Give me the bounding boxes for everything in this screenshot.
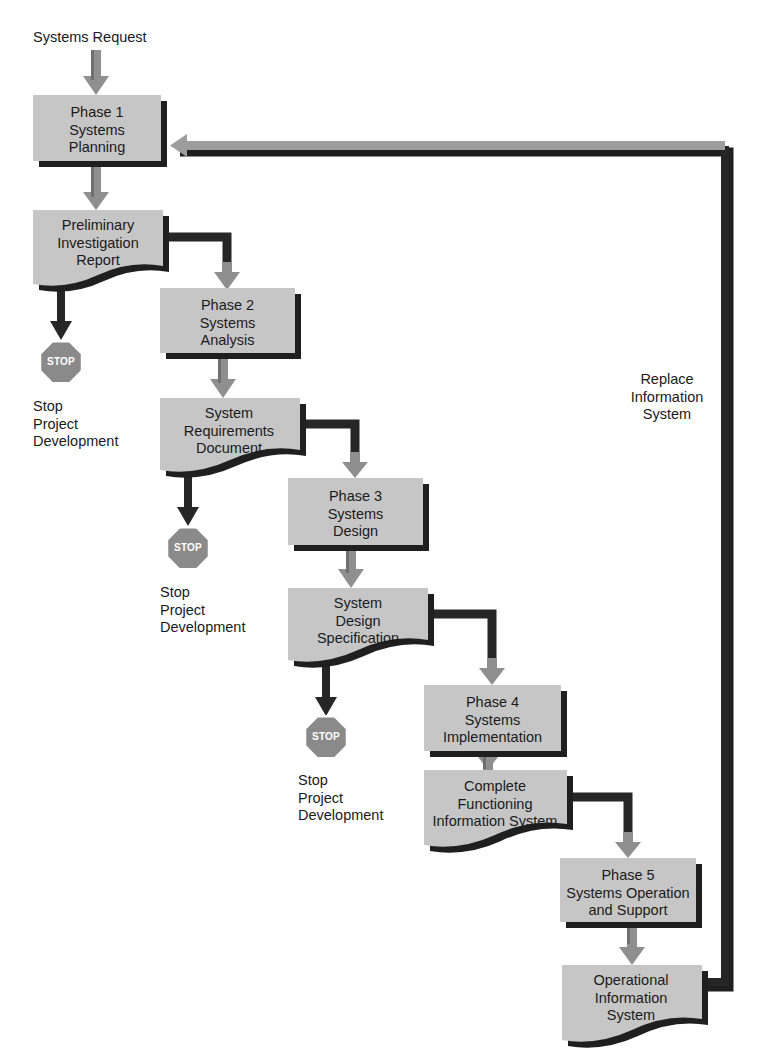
connector-system-design-spec-to-stop3 [315,660,337,716]
node-phase5[interactable] [560,858,702,928]
node-phase3[interactable] [288,478,429,551]
node-preliminary-investigation-report[interactable] [33,210,169,292]
connector-system-requirements-to-phase3 [296,424,368,478]
connector-entry-to-phase1 [83,50,109,95]
node-stop-2[interactable] [167,527,209,569]
connector-complete-system-to-phase5 [562,797,641,858]
connector-phase2-to-system-requirements [210,353,236,398]
stop-3-caption: Stop Project Development [298,772,448,825]
connector-phase1-to-preliminary-report [83,161,109,210]
node-phase1[interactable] [33,95,167,167]
node-stop-3[interactable] [305,716,347,758]
stop-1-caption: Stop Project Development [33,398,183,451]
stop-2-caption: Stop Project Development [160,584,310,637]
connector-phase5-to-operational-system [619,922,645,965]
entry-label: Systems Request [33,29,233,47]
connector-phase3-to-system-design-spec [338,545,364,588]
node-operational-information-system[interactable] [562,965,708,1048]
connector-preliminary-report-to-stop1 [50,286,72,340]
replace-information-system-label: Replace Information System [622,371,712,424]
node-phase2[interactable] [160,288,301,359]
node-stop-1[interactable] [40,341,82,383]
connector-system-design-spec-to-phase4 [424,614,505,685]
flowchart-canvas: Systems Request Phase 1 Systems Planning… [0,0,759,1051]
connector-preliminary-report-to-phase2 [160,237,240,290]
connector-system-requirements-to-stop2 [177,470,199,526]
flowchart-graphics [0,0,759,1051]
node-phase4[interactable] [424,685,567,757]
